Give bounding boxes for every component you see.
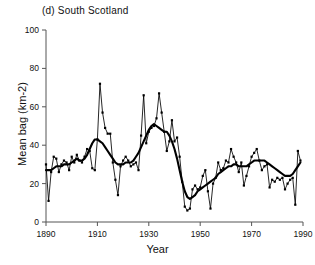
data-point-marker xyxy=(45,163,47,165)
data-point-marker xyxy=(137,169,139,171)
data-point-marker xyxy=(299,159,301,161)
data-point-marker xyxy=(55,158,57,160)
data-point-marker xyxy=(263,165,265,167)
data-point-marker xyxy=(53,156,55,158)
data-series-group xyxy=(45,83,302,212)
data-point-marker xyxy=(230,148,232,150)
data-point-marker xyxy=(189,207,191,209)
line-chart-plot: 020406080100 189019101930195019701990 xyxy=(0,0,315,265)
axes xyxy=(46,30,303,222)
data-point-marker xyxy=(240,161,242,163)
data-point-marker xyxy=(225,159,227,161)
data-point-marker xyxy=(194,184,196,186)
data-point-marker xyxy=(158,92,160,94)
data-point-marker xyxy=(161,111,163,113)
data-point-marker xyxy=(289,179,291,181)
data-point-marker xyxy=(119,165,121,167)
data-point-marker xyxy=(271,179,273,181)
data-point-marker xyxy=(245,175,247,177)
x-axis-ticks: 189019101930195019701990 xyxy=(37,222,313,239)
data-point-marker xyxy=(50,171,52,173)
data-point-marker xyxy=(168,140,170,142)
data-point-marker xyxy=(171,119,173,121)
data-point-marker xyxy=(47,200,49,202)
data-point-marker xyxy=(107,133,109,135)
data-point-marker xyxy=(94,169,96,171)
y-tick-label: 0 xyxy=(34,217,39,227)
data-point-marker xyxy=(179,156,181,158)
data-point-marker xyxy=(143,94,145,96)
data-point-marker xyxy=(251,156,253,158)
data-point-marker xyxy=(274,181,276,183)
data-point-marker xyxy=(173,140,175,142)
data-point-marker xyxy=(127,159,129,161)
y-tick-label: 40 xyxy=(30,140,40,150)
data-point-marker xyxy=(117,194,119,196)
data-point-marker xyxy=(294,204,296,206)
x-tick-label: 1910 xyxy=(88,229,107,239)
data-point-marker xyxy=(268,186,270,188)
data-point-marker xyxy=(68,169,70,171)
y-tick-label: 80 xyxy=(30,63,40,73)
smoothed-trend-line xyxy=(46,124,300,199)
data-point-marker xyxy=(207,190,209,192)
data-point-marker xyxy=(256,148,258,150)
data-point-marker xyxy=(71,156,73,158)
data-point-marker xyxy=(276,177,278,179)
data-point-marker xyxy=(76,154,78,156)
data-point-marker xyxy=(58,171,60,173)
data-point-marker xyxy=(155,117,157,119)
data-point-marker xyxy=(217,161,219,163)
data-point-marker xyxy=(279,179,281,181)
data-point-marker xyxy=(130,165,132,167)
y-tick-label: 20 xyxy=(30,179,40,189)
data-point-marker xyxy=(81,161,83,163)
data-point-marker xyxy=(135,161,137,163)
data-point-marker xyxy=(109,133,111,135)
x-tick-label: 1930 xyxy=(139,229,158,239)
y-tick-label: 60 xyxy=(30,102,40,112)
data-point-marker xyxy=(101,111,103,113)
data-point-marker xyxy=(145,142,147,144)
data-point-marker xyxy=(204,169,206,171)
data-point-marker xyxy=(253,152,255,154)
data-point-marker xyxy=(122,159,124,161)
data-point-marker xyxy=(286,183,288,185)
data-point-marker xyxy=(91,167,93,169)
data-point-marker xyxy=(297,150,299,152)
data-point-marker xyxy=(104,127,106,129)
data-point-marker xyxy=(63,159,65,161)
data-point-marker xyxy=(140,135,142,137)
data-point-marker xyxy=(243,184,245,186)
data-point-marker xyxy=(191,188,193,190)
data-point-marker xyxy=(132,163,134,165)
data-point-marker xyxy=(112,161,114,163)
data-point-marker xyxy=(65,161,67,163)
data-point-marker xyxy=(114,179,116,181)
data-point-marker xyxy=(166,150,168,152)
chart-figure: (d) South Scotland Mean bag (km-2) Year … xyxy=(0,0,315,265)
data-point-marker xyxy=(202,175,204,177)
x-tick-label: 1970 xyxy=(242,229,261,239)
data-point-marker xyxy=(261,169,263,171)
x-tick-label: 1890 xyxy=(37,229,56,239)
data-point-marker xyxy=(281,177,283,179)
x-tick-label: 1950 xyxy=(191,229,210,239)
data-point-marker xyxy=(186,209,188,211)
data-point-marker xyxy=(176,136,178,138)
data-point-marker xyxy=(125,156,127,158)
data-point-marker xyxy=(99,83,101,85)
data-point-marker xyxy=(184,206,186,208)
x-tick-label: 1990 xyxy=(294,229,313,239)
data-point-marker xyxy=(284,188,286,190)
data-point-marker xyxy=(233,156,235,158)
data-point-marker xyxy=(235,161,237,163)
y-tick-label: 100 xyxy=(25,25,39,35)
data-point-marker xyxy=(292,177,294,179)
data-point-marker xyxy=(86,148,88,150)
data-point-marker xyxy=(209,207,211,209)
data-point-marker xyxy=(227,161,229,163)
y-axis-ticks: 020406080100 xyxy=(25,25,46,227)
data-point-marker xyxy=(212,183,214,185)
data-point-marker xyxy=(238,171,240,173)
